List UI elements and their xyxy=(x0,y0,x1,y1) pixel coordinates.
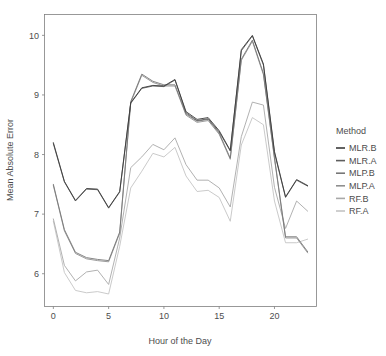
x-tick-label: 5 xyxy=(106,311,111,321)
chart-container: 678910 05101520 Hour of the Day Mean Abs… xyxy=(0,0,386,356)
x-tick-label: 0 xyxy=(51,311,56,321)
x-tick-label: 20 xyxy=(269,311,279,321)
legend-label-mlp-b: MLP.B xyxy=(349,168,375,178)
y-tick-label: 10 xyxy=(29,31,39,41)
y-tick-label: 7 xyxy=(34,209,39,219)
y-tick-label: 9 xyxy=(34,90,39,100)
x-tick-label: 15 xyxy=(214,311,224,321)
legend-label-mlp-a: MLP.A xyxy=(349,181,375,191)
x-axis-title: Hour of the Day xyxy=(148,336,212,346)
mean-absolute-error-line-chart: 678910 05101520 Hour of the Day Mean Abs… xyxy=(0,0,386,356)
x-tick-label: 10 xyxy=(159,311,169,321)
legend-title: Method xyxy=(336,126,366,136)
legend-label-mlr-b: MLR.B xyxy=(349,143,377,153)
legend-label-rf-a: RF.A xyxy=(349,206,369,216)
y-tick-label: 8 xyxy=(34,150,39,160)
y-tick-label: 6 xyxy=(34,269,39,279)
legend-label-rf-b: RF.B xyxy=(349,194,369,204)
y-axis-title: Mean Absolute Error xyxy=(5,119,15,201)
legend-label-mlr-a: MLR.A xyxy=(349,156,377,166)
